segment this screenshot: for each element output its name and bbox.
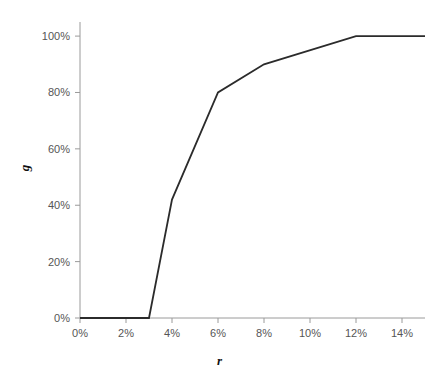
data-series-line: [80, 36, 425, 318]
x-tick-label: 2%: [118, 327, 134, 339]
x-tick-label: 14%: [391, 327, 413, 339]
x-tick-label: 8%: [256, 327, 272, 339]
axis-lines: [80, 22, 425, 318]
x-tick-label: 0%: [72, 327, 88, 339]
x-tick-label: 6%: [210, 327, 226, 339]
series-lines: [80, 36, 425, 318]
y-tick-label: 60%: [20, 143, 70, 155]
x-tick-label: 12%: [345, 327, 367, 339]
y-tick-label: 20%: [20, 256, 70, 268]
y-axis-title: g: [17, 165, 33, 172]
y-tick-label: 0%: [20, 312, 70, 324]
y-tick-label: 40%: [20, 199, 70, 211]
x-tick-label: 4%: [164, 327, 180, 339]
x-tick-label: 10%: [299, 327, 321, 339]
chart-figure: 0%20%40%60%80%100% 0%2%4%6%8%10%12%14% g…: [0, 0, 439, 377]
y-tick-label: 80%: [20, 86, 70, 98]
y-tick-label: 100%: [20, 30, 70, 42]
x-axis-title: r: [0, 353, 439, 369]
